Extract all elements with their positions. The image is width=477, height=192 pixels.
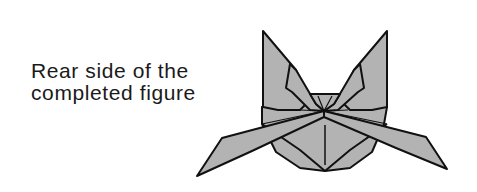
origami-figure-illustration xyxy=(0,0,477,192)
